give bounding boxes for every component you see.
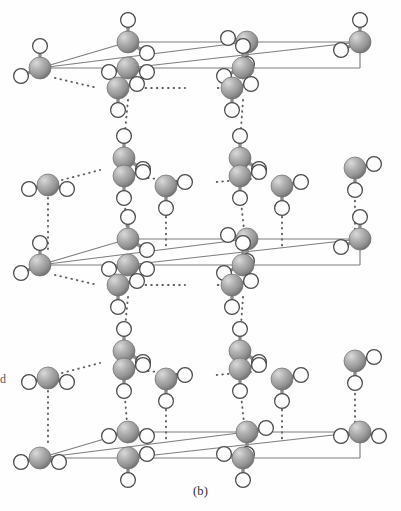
lattice-edge-middle xyxy=(40,239,360,265)
hydrogen-bond xyxy=(62,363,100,373)
water-molecule xyxy=(117,210,154,258)
water-molecule xyxy=(229,165,266,206)
water-molecule xyxy=(117,13,154,61)
molecular-lattice-diagram xyxy=(0,0,401,511)
hydrogen-bond xyxy=(55,78,98,88)
ice-crystal-structure-figure: d xyxy=(0,0,401,511)
lattice-edge-top xyxy=(40,42,360,68)
water-molecule xyxy=(14,236,51,281)
water-molecule xyxy=(334,13,371,58)
water-molecule xyxy=(221,77,258,118)
water-molecule xyxy=(14,39,51,84)
hydrogen-bond xyxy=(62,170,100,180)
water-molecule xyxy=(14,447,67,469)
water-molecule xyxy=(334,421,387,443)
water-molecule xyxy=(102,421,155,443)
water-molecule xyxy=(113,165,150,206)
water-molecule xyxy=(107,77,144,118)
water-molecule xyxy=(217,447,254,488)
water-molecule xyxy=(271,368,308,409)
water-molecule xyxy=(113,358,150,399)
water-molecule xyxy=(22,367,75,389)
water-molecule xyxy=(22,174,75,196)
water-molecule xyxy=(107,274,144,315)
hydrogen-bonds-group xyxy=(48,78,355,443)
water-molecule xyxy=(155,175,192,216)
water-molecule xyxy=(271,175,308,216)
water-molecules-lower-middle-band xyxy=(22,322,382,409)
lattice-edges-group xyxy=(40,42,360,458)
water-molecules-upper-middle-band xyxy=(22,129,382,216)
water-molecule xyxy=(221,274,258,315)
figure-caption: (b) xyxy=(0,484,401,499)
water-molecule xyxy=(155,368,192,409)
water-molecule xyxy=(344,157,381,198)
water-molecule xyxy=(344,350,381,391)
water-molecule xyxy=(229,358,266,399)
hydrogen-bond xyxy=(55,275,98,285)
lattice-edge-bottom xyxy=(40,432,360,458)
water-molecule xyxy=(334,210,371,255)
water-molecule xyxy=(117,447,154,488)
